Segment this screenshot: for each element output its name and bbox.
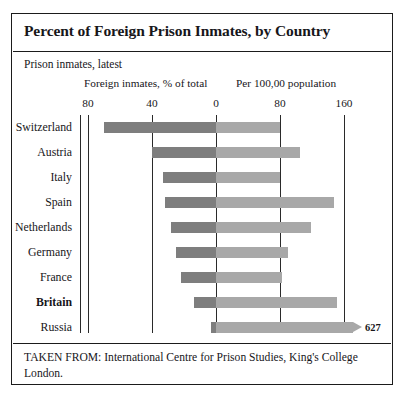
bar-per-100k-spain [216, 197, 334, 208]
bar-per-100k-russia [216, 322, 353, 333]
axis-tick-160-4: 160 [336, 97, 353, 109]
bar-foreign-pct-france [181, 272, 216, 283]
category-label-spain: Spain [12, 190, 72, 215]
category-label-switzerland: Switzerland [12, 115, 72, 140]
category-label-britain: Britain [12, 290, 72, 315]
category-label-russia: Russia [12, 315, 72, 340]
bar-per-100k-italy [216, 172, 280, 183]
bar-per-100k-britain [216, 297, 337, 308]
bar-foreign-pct-switzerland [104, 122, 216, 133]
source-note: TAKEN FROM: International Centre for Pri… [24, 350, 380, 382]
bar-foreign-pct-netherlands [171, 222, 216, 233]
category-label-germany: Germany [12, 240, 72, 265]
bar-per-100k-switzerland [216, 122, 280, 133]
bar-per-100k-germany [216, 247, 288, 258]
table-row: Netherlands [12, 215, 392, 240]
bar-foreign-pct-britain [194, 297, 216, 308]
table-row: Russia627 [12, 315, 392, 340]
category-label-italy: Italy [12, 165, 72, 190]
bar-foreign-pct-germany [176, 247, 216, 258]
footer-divider [13, 343, 391, 344]
table-row: Switzerland [12, 115, 392, 140]
axis-tick-40-1: 40 [146, 97, 157, 109]
table-row: Britain [12, 290, 392, 315]
bar-per-100k-austria [216, 147, 300, 158]
bar-foreign-pct-spain [165, 197, 216, 208]
category-label-austria: Austria [12, 140, 72, 165]
data-value-label-russia: 627 [365, 322, 381, 333]
bar-foreign-pct-austria [152, 147, 216, 158]
table-row: Germany [12, 240, 392, 265]
table-row: France [12, 265, 392, 290]
bar-per-100k-netherlands [216, 222, 311, 233]
category-label-netherlands: Netherlands [12, 215, 72, 240]
category-label-france: France [12, 265, 72, 290]
axis-tick-80-0: 80 [82, 97, 93, 109]
bar-foreign-pct-italy [163, 172, 216, 183]
chart-figure: Percent of Foreign Prison Inmates, by Co… [11, 13, 393, 385]
table-row: Spain [12, 190, 392, 215]
plot-area: 8040080160 SwitzerlandAustriaItalySpainN… [12, 14, 392, 384]
table-row: Italy [12, 165, 392, 190]
table-row: Austria [12, 140, 392, 165]
bar-per-100k-france [216, 272, 282, 283]
axis-tick-80-3: 80 [274, 97, 285, 109]
axis-break-arrow-icon [353, 322, 362, 333]
axis-tick-0-2: 0 [213, 97, 219, 109]
